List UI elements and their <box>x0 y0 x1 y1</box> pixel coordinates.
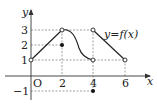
function-graph: y x O 2 4 6 3 2 1 −1 y=f(x) <box>0 0 157 106</box>
y-axis-label: y <box>21 6 29 19</box>
y-tick-3: 3 <box>21 24 28 37</box>
y-tick-neg1: −1 <box>13 85 29 98</box>
y-axis-arrow-icon <box>29 9 34 15</box>
y-tick-1: 1 <box>21 54 28 67</box>
y-tick-2: 2 <box>21 39 28 52</box>
origin-label: O <box>33 77 42 90</box>
x-tick-4: 4 <box>90 77 97 90</box>
function-label: y=f(x) <box>103 28 138 41</box>
x-axis-label: x <box>147 75 154 88</box>
x-tick-6: 6 <box>122 77 129 90</box>
x-tick-2: 2 <box>59 77 66 90</box>
